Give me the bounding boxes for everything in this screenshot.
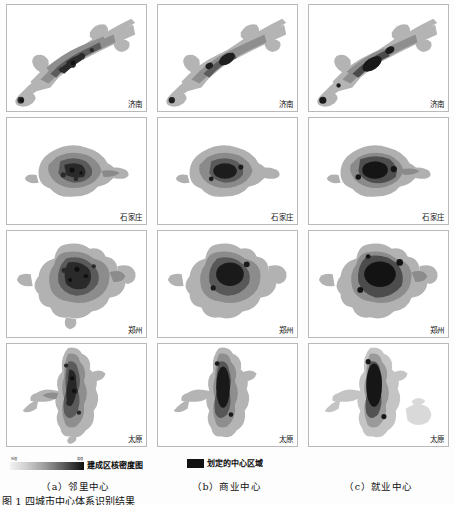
map-panel[interactable]: 郑州	[157, 230, 298, 338]
density-gradient-wrap: 低值 高值	[10, 457, 84, 470]
kernel-density-map	[7, 118, 146, 224]
kernel-density-map	[158, 344, 297, 446]
figure-title: 图 1 四城市中心体系识别结果	[2, 496, 135, 505]
density-gradient-bar	[10, 462, 84, 470]
map-panel[interactable]: 太原	[6, 343, 147, 447]
map-panel[interactable]: 石家庄	[6, 117, 147, 225]
figure-legend: 低值 高值 建成区核密度图 划定的中心区域	[10, 455, 450, 471]
map-panel[interactable]: 济南	[308, 4, 449, 112]
city-label: 石家庄	[120, 213, 142, 222]
city-label: 太原	[430, 435, 444, 444]
legend-item-center-area: 划定的中心区域	[187, 459, 263, 468]
center-area-swatch	[187, 459, 204, 468]
city-label: 郑州	[128, 326, 142, 335]
map-panel[interactable]: 石家庄	[308, 117, 449, 225]
map-panel[interactable]: 太原	[157, 343, 298, 447]
map-panel[interactable]: 济南	[6, 4, 147, 112]
kernel-density-map	[7, 5, 146, 111]
kernel-density-map	[309, 5, 448, 111]
city-label: 济南	[279, 100, 293, 109]
city-label: 石家庄	[271, 213, 293, 222]
map-panel[interactable]: 郑州	[308, 230, 449, 338]
legend-item-density: 低值 高值 建成区核密度图	[10, 457, 143, 470]
kernel-density-map	[309, 231, 448, 337]
kernel-density-map	[158, 231, 297, 337]
map-panel[interactable]: 济南	[157, 4, 298, 112]
map-panel[interactable]: 太原	[308, 343, 449, 447]
kernel-density-map	[7, 344, 146, 446]
city-label: 太原	[279, 435, 293, 444]
city-label: 济南	[430, 100, 444, 109]
kernel-density-map	[7, 231, 146, 337]
density-legend-label: 建成区核密度图	[87, 461, 143, 471]
city-label: 郑州	[279, 326, 293, 335]
kernel-density-map	[309, 118, 448, 224]
map-panel[interactable]: 郑州	[6, 230, 147, 338]
map-panel[interactable]: 石家庄	[157, 117, 298, 225]
caption-a: （a）邻里中心	[0, 480, 151, 493]
caption-c: （c）就业中心	[302, 480, 455, 493]
panel-grid: 济南	[6, 4, 449, 447]
kernel-density-map	[158, 118, 297, 224]
caption-b: （b）商业中心	[151, 480, 302, 493]
city-label: 济南	[128, 100, 142, 109]
figure-container: 济南	[0, 0, 455, 505]
city-label: 石家庄	[422, 213, 444, 222]
kernel-density-map	[309, 344, 448, 446]
density-high-tick: 高值	[77, 457, 83, 461]
column-captions: （a）邻里中心 （b）商业中心 （c）就业中心	[0, 480, 455, 493]
kernel-density-map	[158, 5, 297, 111]
city-label: 太原	[128, 435, 142, 444]
city-label: 郑州	[430, 326, 444, 335]
density-low-tick: 低值	[11, 457, 17, 461]
center-area-legend-label: 划定的中心区域	[207, 459, 263, 469]
